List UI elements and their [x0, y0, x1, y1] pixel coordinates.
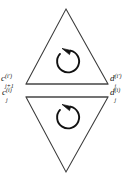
- label-d-lower-superscript: (i): [115, 87, 121, 93]
- label-c-upper-superscript: (i′): [5, 73, 12, 79]
- lower-counterclockwise-arrow-icon: [57, 104, 79, 128]
- label-c-upper: c(i′)j+1: [1, 74, 5, 83]
- label-c-lower-subscript: j: [6, 97, 8, 103]
- label-d-upper-superscript: (i′): [115, 73, 122, 79]
- label-c-lower: c(i)j: [2, 88, 6, 97]
- upper-triangle-group: [26, 9, 108, 84]
- label-d-upper: d(i′)j: [110, 74, 115, 83]
- figure-container: c(i′)j+1 c(i)j d(i′)j d(i)j: [0, 0, 133, 191]
- label-d-lower: d(i)j: [110, 88, 115, 97]
- upper-counterclockwise-arrow-icon: [57, 48, 79, 72]
- lower-triangle-group: [26, 97, 108, 172]
- label-d-lower-subscript: j: [115, 97, 117, 103]
- label-c-lower-superscript: (i): [6, 87, 12, 93]
